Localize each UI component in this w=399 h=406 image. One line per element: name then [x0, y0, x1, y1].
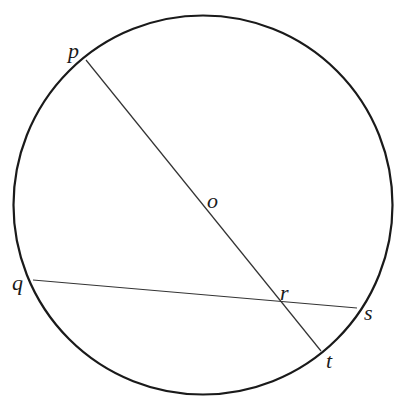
label-p: p [66, 38, 79, 63]
segment-qs [33, 280, 357, 308]
label-t: t [326, 348, 333, 373]
label-q: q [12, 270, 23, 295]
label-s: s [364, 300, 373, 325]
label-r: r [280, 280, 289, 305]
segment-pt [86, 60, 321, 351]
label-o: o [207, 188, 218, 213]
circle-diagram: p o q r s t [0, 0, 399, 406]
